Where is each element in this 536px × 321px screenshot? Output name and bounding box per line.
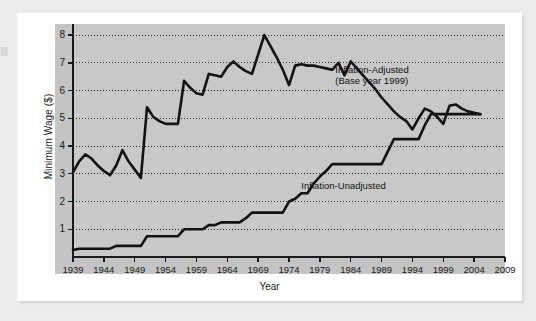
y-tick-label: 2 <box>49 197 65 207</box>
series-line-0 <box>73 35 480 178</box>
y-tick-label: 8 <box>49 30 65 40</box>
series-lines-group <box>73 35 480 250</box>
x-axis-title: Year <box>17 281 522 292</box>
y-tick-label: 1 <box>49 224 65 234</box>
y-tick-label: 5 <box>49 113 65 123</box>
y-axis-title: Minimum Wage ($) <box>43 62 54 212</box>
axes-group <box>73 24 505 257</box>
chart-canvas <box>55 24 505 274</box>
scan-edge-artifact <box>1 47 8 56</box>
series-line-1 <box>73 114 480 250</box>
figure-page: Minimum Wage ($) 12345678 19391944194919… <box>0 0 536 321</box>
chart-figure-card: Minimum Wage ($) 12345678 19391944194919… <box>17 13 522 301</box>
inflation-unadjusted-label: Inflation-Unadjusted <box>301 180 386 192</box>
y-tick-label: 4 <box>49 141 65 151</box>
y-tick-label: 3 <box>49 169 65 179</box>
inflation-adjusted-label: Inflation-Adjusted (Base year 1999) <box>335 64 408 87</box>
x-tick-label: 2009 <box>485 265 525 275</box>
y-tick-label: 7 <box>49 58 65 68</box>
plot-region: 12345678 1939194419491954195919641969197… <box>55 24 505 274</box>
y-tick-label: 6 <box>49 86 65 96</box>
